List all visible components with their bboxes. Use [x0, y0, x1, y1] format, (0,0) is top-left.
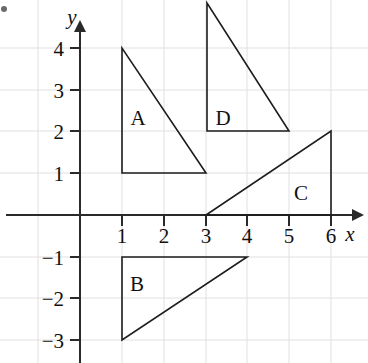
- triangle-d-label: D: [215, 106, 230, 130]
- x-tick-label-3: 3: [201, 224, 212, 248]
- x-tick-label-5: 5: [284, 224, 295, 248]
- y-tick-label-2: 2: [54, 120, 65, 144]
- y-tick-label-4: 4: [54, 37, 65, 61]
- y-tick-label-3: 3: [54, 79, 65, 103]
- y-tick-labels: 4 3 2 1 −1 −2 −3: [42, 37, 65, 353]
- y-tick-label-1: 1: [54, 162, 65, 186]
- axes: [6, 20, 364, 363]
- coordinate-plane-svg: 1 2 3 4 5 6 4 3 2 1 −1 −2 −3 x y: [0, 0, 368, 363]
- scan-speck: [1, 6, 7, 12]
- x-axis-label: x: [344, 222, 355, 246]
- y-tick-marks: [70, 48, 80, 340]
- y-tick-label-minus-3: −3: [42, 329, 64, 353]
- x-tick-marks: [122, 215, 331, 226]
- x-tick-label-2: 2: [159, 224, 170, 248]
- y-axis-label: y: [65, 5, 77, 29]
- triangle-b-label: B: [130, 272, 144, 296]
- y-tick-label-minus-1: −1: [42, 246, 64, 270]
- x-axis-arrow-icon: [352, 209, 364, 221]
- x-tick-label-4: 4: [242, 224, 253, 248]
- shapes: [122, 3, 331, 340]
- x-tick-label-6: 6: [326, 224, 337, 248]
- shape-labels: A B C D: [130, 106, 308, 296]
- x-tick-labels: 1 2 3 4 5 6: [117, 224, 337, 248]
- figure-canvas: 1 2 3 4 5 6 4 3 2 1 −1 −2 −3 x y: [0, 0, 368, 363]
- y-tick-label-minus-2: −2: [42, 287, 64, 311]
- x-tick-label-1: 1: [117, 224, 128, 248]
- triangle-a-label: A: [130, 106, 146, 130]
- triangle-c-label: C: [294, 181, 308, 205]
